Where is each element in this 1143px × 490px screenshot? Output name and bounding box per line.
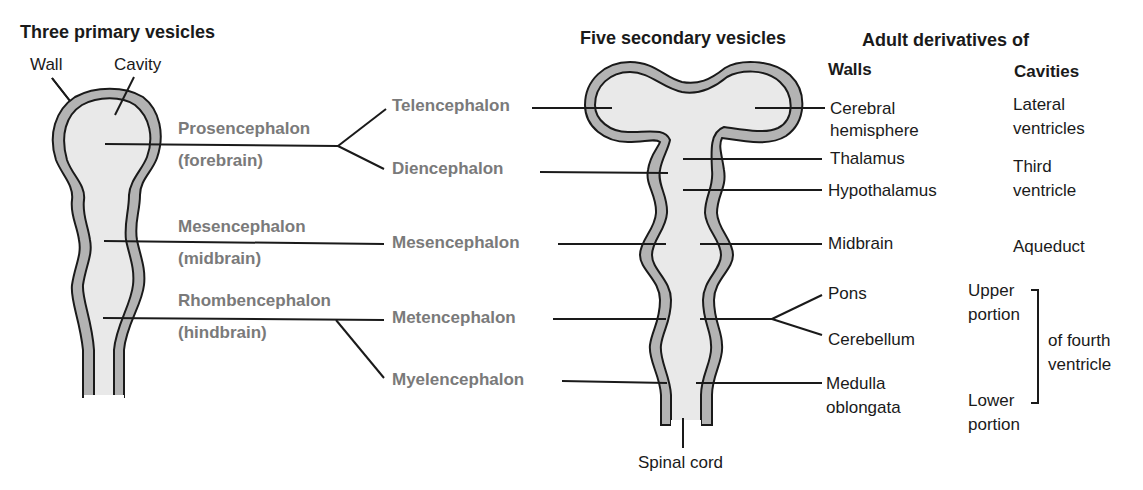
label-hypothalamus: Hypothalamus: [828, 180, 937, 202]
label-hindbrain: (hindbrain): [178, 322, 267, 344]
label-rhombencephalon: Rhombencephalon: [178, 290, 331, 312]
label-midbrain-wall: Midbrain: [828, 233, 893, 255]
label-hemisphere: hemisphere: [830, 120, 919, 142]
label-forebrain: (forebrain): [178, 150, 263, 172]
label-wall: Wall: [30, 54, 62, 76]
label-thalamus: Thalamus: [830, 148, 905, 170]
label-mesencephalon-secondary: Mesencephalon: [392, 232, 520, 254]
label-cerebellum: Cerebellum: [828, 329, 915, 351]
label-oblongata: oblongata: [826, 397, 901, 419]
label-upper-portion: portion: [968, 304, 1020, 326]
label-lateral: Lateral: [1013, 94, 1065, 116]
heading-walls: Walls: [828, 60, 872, 80]
label-telencephalon: Telencephalon: [392, 95, 510, 117]
label-ventricles: ventricles: [1013, 118, 1085, 140]
label-midbrain-primary: (midbrain): [178, 248, 261, 270]
label-lower: Lower: [968, 390, 1014, 412]
label-prosencephalon: Prosencephalon: [178, 118, 310, 140]
label-myelencephalon: Myelencephalon: [392, 369, 524, 391]
label-medulla: Medulla: [826, 373, 886, 395]
label-lower-portion: portion: [968, 414, 1020, 436]
heading-primary-vesicles: Three primary vesicles: [20, 22, 215, 43]
label-third: Third: [1013, 156, 1052, 178]
label-mesencephalon-primary: Mesencephalon: [178, 216, 306, 238]
heading-adult-derivatives: Adult derivatives of: [862, 30, 1029, 51]
label-upper: Upper: [968, 280, 1014, 302]
label-cavity: Cavity: [114, 54, 161, 76]
label-aqueduct: Aqueduct: [1013, 236, 1085, 258]
label-cerebral: Cerebral: [830, 98, 895, 120]
label-of-fourth: of fourth: [1048, 330, 1110, 352]
label-spinal-cord: Spinal cord: [638, 452, 723, 474]
heading-cavities: Cavities: [1014, 62, 1079, 82]
label-pons: Pons: [828, 283, 867, 305]
label-third-ventricle: ventricle: [1013, 180, 1076, 202]
heading-secondary-vesicles: Five secondary vesicles: [580, 28, 786, 49]
label-diencephalon: Diencephalon: [392, 158, 503, 180]
primary-vesicle-shape: [53, 89, 161, 401]
label-fourth-ventricle: ventricle: [1048, 354, 1111, 376]
label-metencephalon: Metencephalon: [392, 307, 516, 329]
